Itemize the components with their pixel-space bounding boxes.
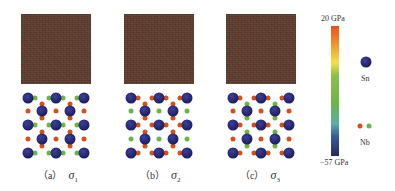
sn-atom [37, 106, 48, 117]
colorbar-min-label: −57 GPa [320, 158, 348, 167]
sn-atom [79, 148, 90, 159]
sn-atom [182, 93, 193, 104]
nb-atom [129, 109, 134, 114]
nb-atom [157, 109, 162, 114]
caption-c-symbol: σ3 [270, 168, 279, 182]
caption-c-label: （c） [240, 170, 264, 181]
sn-atom [79, 120, 90, 131]
sn-atom [270, 134, 281, 145]
nb-atom [157, 137, 162, 142]
nb-legend-label: Nb [360, 138, 370, 147]
nb-atom [26, 137, 31, 142]
sn-atom [23, 93, 34, 104]
sn-atom [256, 120, 267, 131]
sn-atom [79, 93, 90, 104]
sn-atom [51, 148, 62, 159]
nb-atom [26, 109, 31, 114]
stress-colorbar [331, 26, 339, 156]
sn-atom [228, 93, 239, 104]
sn-atom [154, 120, 165, 131]
sn-atom [154, 148, 165, 159]
nb-atom [287, 137, 292, 142]
sn-atom [228, 120, 239, 131]
stress-map-b [124, 14, 194, 84]
sn-atom [140, 134, 151, 145]
caption-a-symbol: σ1 [68, 168, 77, 182]
sn-legend-icon [361, 57, 372, 68]
nb-atom [82, 109, 87, 114]
caption-a: （a）σ1 [38, 167, 78, 184]
caption-b: （b）σ2 [140, 167, 180, 184]
sn-atom [256, 93, 267, 104]
caption-b-symbol: σ2 [171, 168, 180, 182]
nb-atom [259, 109, 264, 114]
sn-atom [65, 134, 76, 145]
nb-atom [185, 137, 190, 142]
sn-atom [23, 148, 34, 159]
sn-atom [270, 106, 281, 117]
caption-c: （c）σ3 [240, 167, 280, 184]
colorbar-max-label: 20 GPa [321, 14, 345, 23]
nb-legend-icon-orange [358, 124, 363, 129]
sn-atom [242, 106, 253, 117]
sn-atom [182, 148, 193, 159]
caption-a-label: （a） [38, 170, 62, 181]
stress-map-a [21, 14, 91, 84]
sn-atom [23, 120, 34, 131]
sn-atom [126, 93, 137, 104]
nb-atom [259, 137, 264, 142]
sn-legend-label: Sn [361, 74, 369, 83]
sn-atom [168, 134, 179, 145]
nb-atom [54, 137, 59, 142]
sn-atom [51, 120, 62, 131]
nb-atom [231, 109, 236, 114]
nb-atom [129, 137, 134, 142]
lattice-c [220, 90, 300, 160]
stress-map-c [226, 14, 296, 84]
sn-atom [154, 93, 165, 104]
caption-b-label: （b） [140, 170, 165, 181]
nb-legend-icon-green [367, 124, 372, 129]
nb-atom [231, 137, 236, 142]
nb-atom [287, 109, 292, 114]
sn-atom [284, 93, 295, 104]
sn-atom [256, 148, 267, 159]
sn-atom [168, 106, 179, 117]
nb-atom [185, 109, 190, 114]
nb-atom [82, 137, 87, 142]
lattice-a [15, 90, 95, 160]
sn-atom [126, 120, 137, 131]
lattice-b [118, 90, 198, 160]
sn-atom [242, 134, 253, 145]
sn-atom [37, 134, 48, 145]
sn-atom [140, 106, 151, 117]
sn-atom [65, 106, 76, 117]
sn-atom [182, 120, 193, 131]
sn-atom [126, 148, 137, 159]
sn-atom [51, 93, 62, 104]
sn-atom [284, 120, 295, 131]
sn-atom [284, 148, 295, 159]
sn-atom [228, 148, 239, 159]
nb-atom [54, 109, 59, 114]
